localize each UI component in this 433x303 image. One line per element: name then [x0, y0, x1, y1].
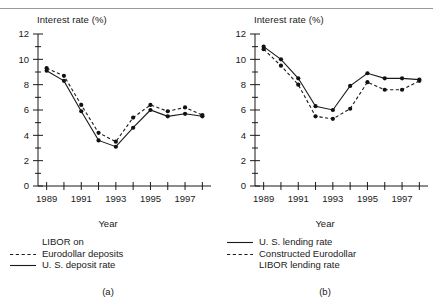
y-tick-label: 6: [24, 104, 29, 115]
data-point: [183, 105, 187, 109]
data-point: [296, 76, 300, 80]
legend-b: U. S. lending rateConstructed Eurodollar…: [217, 236, 433, 271]
x-axis-title-a: Year: [0, 218, 216, 229]
data-point: [348, 107, 352, 111]
data-point: [296, 83, 300, 87]
panel-label-a: (a): [0, 286, 216, 297]
y-tick-label: 12: [18, 28, 29, 39]
y-tick-label: 2: [241, 155, 246, 166]
x-tick-label: 1995: [140, 193, 161, 204]
data-point: [79, 103, 83, 107]
x-tick-label: 1991: [288, 193, 309, 204]
data-point: [183, 112, 187, 116]
legend-label: U. S. deposit rate: [42, 259, 115, 271]
legend-dashed-line-icon: [217, 248, 257, 260]
legend-entry: Eurodollar deposits: [0, 248, 216, 260]
x-axis-title-b: Year: [217, 218, 433, 229]
legend-spacer: [217, 259, 257, 271]
y-tick-label: 6: [241, 104, 246, 115]
data-point: [96, 131, 100, 135]
top-divider: [0, 8, 433, 9]
y-tick-label: 8: [24, 79, 29, 90]
legend-a: LIBOR onEurodollar depositsU. S. deposit…: [0, 236, 216, 271]
legend-entry: LIBOR lending rate: [217, 259, 433, 271]
data-point: [400, 88, 404, 92]
x-tick-label: 1989: [36, 193, 57, 204]
x-tick-label: 1993: [322, 193, 343, 204]
series-line-0: [264, 47, 420, 110]
legend-label: LIBOR on: [42, 236, 84, 248]
y-tick-label: 0: [241, 180, 246, 191]
data-point: [166, 109, 170, 113]
data-point: [148, 108, 152, 112]
data-point: [365, 80, 369, 84]
plot-area-a: 02468101219891991199319951997: [0, 24, 216, 219]
legend-label: Eurodollar deposits: [42, 248, 123, 260]
legend-solid-line-icon: [217, 236, 257, 248]
data-point: [417, 79, 421, 83]
plot-area-b: 02468101219891991199319951997: [217, 24, 433, 219]
legend-entry: U. S. deposit rate: [0, 259, 216, 271]
series-line-1: [264, 49, 420, 119]
data-point: [331, 117, 335, 121]
data-point: [79, 109, 83, 113]
data-point: [45, 69, 49, 73]
legend-entry: LIBOR on: [0, 236, 216, 248]
chart-panel-a: Interest rate (%) 0246810121989199119931…: [0, 14, 216, 303]
data-point: [62, 79, 66, 83]
y-tick-label: 4: [241, 130, 246, 141]
data-point: [131, 126, 135, 130]
x-tick-label: 1997: [391, 193, 412, 204]
data-point: [62, 74, 66, 78]
y-tick-label: 4: [24, 130, 29, 141]
y-tick-label: 2: [24, 155, 29, 166]
data-point: [279, 64, 283, 68]
data-point: [400, 76, 404, 80]
y-tick-label: 10: [18, 54, 29, 65]
data-point: [279, 57, 283, 61]
figure-container: Interest rate (%) 0246810121989199119931…: [0, 0, 433, 303]
data-point: [114, 145, 118, 149]
data-point: [383, 76, 387, 80]
y-tick-label: 12: [235, 28, 246, 39]
legend-spacer: [0, 236, 40, 248]
data-point: [131, 116, 135, 120]
legend-label: Constructed Eurodollar: [259, 248, 356, 260]
data-point: [313, 114, 317, 118]
data-point: [383, 88, 387, 92]
series-line-0: [47, 68, 203, 141]
legend-entry: Constructed Eurodollar: [217, 248, 433, 260]
y-tick-label: 10: [235, 54, 246, 65]
legend-solid-line-icon: [0, 259, 40, 271]
data-point: [313, 104, 317, 108]
data-point: [148, 103, 152, 107]
x-tick-label: 1989: [253, 193, 274, 204]
x-tick-label: 1997: [174, 193, 195, 204]
data-point: [365, 71, 369, 75]
legend-dashed-line-icon: [0, 248, 40, 260]
x-tick-label: 1993: [105, 193, 126, 204]
data-point: [200, 114, 204, 118]
x-tick-label: 1995: [357, 193, 378, 204]
chart-panel-b: Interest rate (%) 0246810121989199119931…: [217, 14, 433, 303]
y-tick-label: 0: [24, 180, 29, 191]
y-tick-label: 8: [241, 79, 246, 90]
x-tick-label: 1991: [71, 193, 92, 204]
legend-label: U. S. lending rate: [259, 236, 332, 248]
data-point: [96, 138, 100, 142]
data-point: [262, 47, 266, 51]
data-point: [331, 108, 335, 112]
legend-entry: U. S. lending rate: [217, 236, 433, 248]
data-point: [114, 140, 118, 144]
data-point: [348, 84, 352, 88]
legend-label: LIBOR lending rate: [259, 259, 340, 271]
data-point: [166, 114, 170, 118]
panel-label-b: (b): [217, 286, 433, 297]
